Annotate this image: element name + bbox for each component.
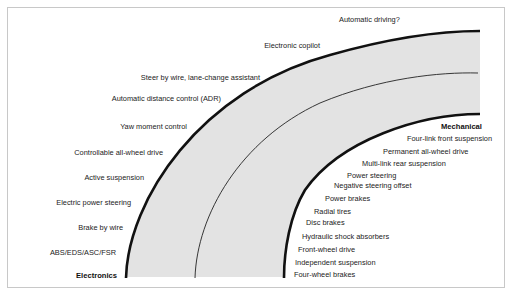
mechanical-item: Four-wheel brakes [294,270,355,279]
electronics-item: Active suspension [84,173,144,182]
mechanical-item: Permanent all-wheel drive [383,147,468,156]
mechanical-item: Power steering [347,171,396,180]
mechanical-item: Disc brakes [306,218,345,227]
electronics-item: Steer by wire, lane-change assistant [141,73,260,82]
electronics-item: Electric power steering [56,198,131,207]
electronics-item: Automatic distance control (ADR) [112,94,221,103]
mechanical-item: Negative steering offset [334,181,412,190]
mechanical-item: Radial tires [314,207,351,216]
electronics-item: Yaw moment control [120,122,187,131]
mechanical-item: Front-wheel drive [298,245,355,254]
electronics-item: Brake by wire [78,223,123,232]
mechanical-item: Power brakes [325,194,370,203]
mechanical-item: Multi-link rear suspension [362,159,446,168]
electronics-heading: Electronics [76,271,117,280]
electronics-item: Electronic copilot [264,41,320,50]
electronics-item: ABS/EDS/ASC/FSR [50,248,116,257]
mechanical-item: Hydraulic shock absorbers [302,232,389,241]
automatic-driving-label: Automatic driving? [339,15,400,24]
mechanical-heading: Mechanical [441,122,482,131]
mechanical-item: Four-link front suspension [407,134,492,143]
electronics-item: Controllable all-wheel drive [74,148,163,157]
mechanical-item: Independent suspension [295,258,376,267]
